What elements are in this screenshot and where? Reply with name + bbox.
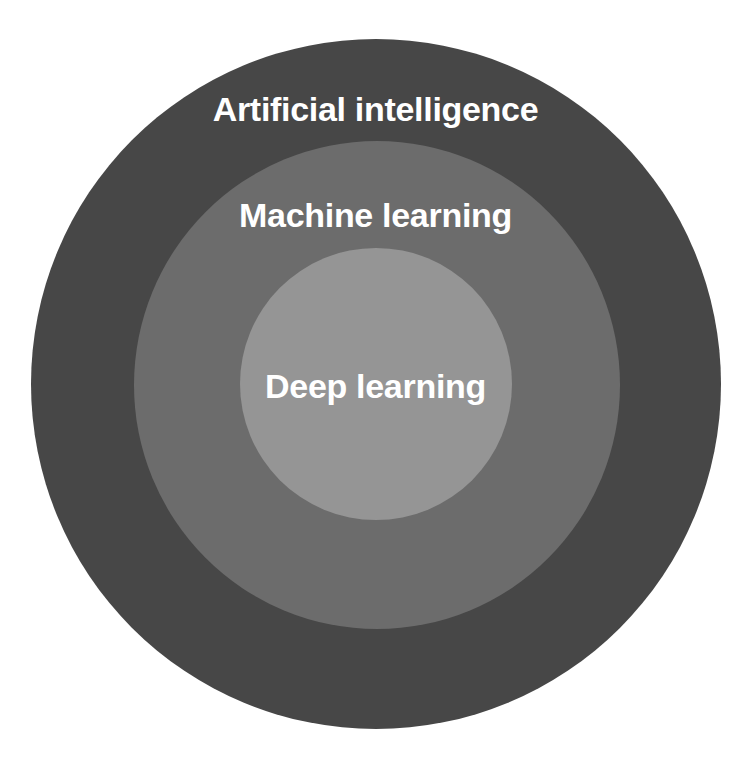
- deep-learning-label: Deep learning: [0, 369, 751, 403]
- artificial-intelligence-label: Artificial intelligence: [0, 92, 751, 126]
- machine-learning-label: Machine learning: [0, 198, 751, 232]
